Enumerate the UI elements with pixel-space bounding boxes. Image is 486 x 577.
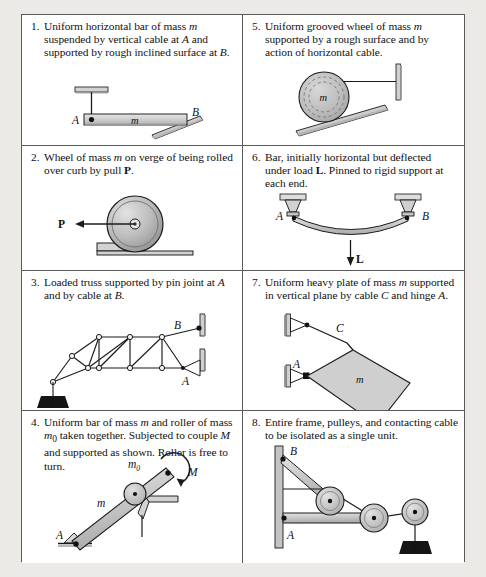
- label-c: C: [336, 322, 344, 334]
- label-a: A: [55, 529, 64, 541]
- label-a: A: [181, 375, 190, 387]
- pulley-right: [402, 499, 428, 525]
- label-b: B: [422, 210, 429, 222]
- roller-bracket: [138, 496, 178, 537]
- uniform-bar: [72, 468, 174, 550]
- cable-anchor-b: [196, 325, 201, 330]
- panel-4: 4. Uniform bar of mass m and roller of m…: [22, 411, 243, 563]
- label-m: m: [97, 497, 105, 509]
- label-a: A: [286, 529, 295, 541]
- panel-7: 7. Uniform heavy plate of mass m support…: [243, 271, 464, 411]
- wall-plate-bottom: [200, 349, 205, 371]
- roller: [124, 483, 146, 505]
- pulley-upper: [316, 487, 344, 515]
- pin-b: [405, 216, 410, 221]
- pin-a: [73, 541, 78, 546]
- label-m: m: [356, 374, 364, 385]
- pin-a: [292, 216, 297, 221]
- panel-5-figure: m: [243, 15, 464, 145]
- load-arrow: [347, 240, 354, 266]
- svg-text:m0: m0: [128, 458, 140, 473]
- ceiling-support: [75, 87, 108, 93]
- label-m0: m: [128, 458, 136, 470]
- pin-joint-a: [89, 117, 94, 122]
- panel-3-figure: B A L: [22, 271, 242, 410]
- bar-top-pin: [165, 470, 170, 475]
- label-m0-subscript: 0: [136, 464, 140, 473]
- panel-3: 3. Loaded truss supported by pin joint a…: [22, 271, 243, 411]
- page-background: 1. Uniform horizontal bar of mass m susp…: [0, 0, 486, 577]
- label-a: A: [71, 114, 80, 126]
- deflected-bar: [293, 216, 408, 235]
- cable-c: [307, 325, 353, 350]
- label-load: L: [356, 253, 364, 265]
- panel-1-figure: A B m: [22, 15, 242, 145]
- label-moment: M: [187, 466, 199, 478]
- panel-7-figure: C A m: [243, 271, 464, 410]
- label-m: m: [131, 115, 139, 126]
- wall-support: [396, 64, 401, 100]
- panel-4-figure: A m M m0: [22, 411, 242, 563]
- couple-arrowhead: [177, 479, 185, 488]
- label-p: P: [58, 218, 65, 230]
- wall-plate-top: [200, 314, 205, 336]
- pin-a: [281, 515, 286, 520]
- panel-8: 8. Entire frame, pulleys, and contacting…: [243, 411, 464, 563]
- load-block: L: [37, 382, 69, 408]
- panel-6: 6. Bar, initially horizontal but deflect…: [243, 146, 464, 271]
- label-m: m: [320, 92, 328, 103]
- label-b: B: [192, 106, 199, 118]
- support-b: [395, 194, 421, 216]
- pin-b: [280, 456, 285, 461]
- panel-2-figure: P: [22, 146, 242, 270]
- label-b: B: [174, 319, 181, 331]
- truss-members: [53, 328, 200, 382]
- load-block: L: [399, 541, 432, 554]
- panel-1: 1. Uniform horizontal bar of mass m susp…: [22, 15, 243, 146]
- wall-bracket-cable: [285, 314, 309, 336]
- grooved-wheel: m: [299, 72, 349, 122]
- panel-8-figure: B A L: [243, 411, 464, 563]
- label-b: B: [290, 445, 297, 457]
- panel-2: 2. Wheel of mass m on verge of being rol…: [22, 146, 243, 271]
- label-a: A: [292, 358, 301, 370]
- figure-table: 1. Uniform horizontal bar of mass m susp…: [21, 14, 465, 562]
- label-a: A: [275, 210, 284, 222]
- pulley-middle: [360, 504, 388, 532]
- pin-support-a: [181, 360, 200, 376]
- panel-5: 5. Uniform grooved wheel of mass m suppo…: [243, 15, 464, 146]
- label-load: L: [48, 396, 55, 408]
- label-load: L: [411, 542, 418, 554]
- support-a: [280, 194, 306, 216]
- panel-6-figure: A B L: [243, 146, 464, 270]
